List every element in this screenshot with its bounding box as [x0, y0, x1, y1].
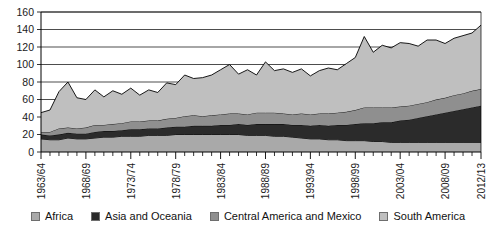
- y-axis-tick-label: 120: [16, 41, 34, 53]
- legend-swatch-icon: [210, 212, 219, 221]
- y-axis-tick-label: 140: [16, 23, 34, 35]
- x-axis-tick-label: 2003/04: [395, 163, 406, 200]
- x-axis-tick-label: 2008/09: [440, 163, 451, 200]
- y-axis-tick-label: 160: [16, 6, 34, 18]
- y-axis-tick-label: 0: [28, 146, 34, 158]
- x-axis-tick-label: 1983/84: [216, 163, 227, 200]
- x-axis-tick-label: 1963/64: [36, 163, 47, 200]
- legend-swatch-icon: [379, 212, 388, 221]
- chart-legend: AfricaAsia and OceaniaCentral America an…: [0, 204, 496, 228]
- y-axis-tick-label: 100: [16, 58, 34, 70]
- legend-swatch-icon: [91, 212, 100, 221]
- legend-label: Central America and Mexico: [224, 210, 362, 222]
- x-axis-tick-label: 1978/79: [171, 163, 182, 200]
- y-axis-tick-label: 80: [22, 76, 34, 88]
- legend-label: Africa: [45, 210, 73, 222]
- x-axis-tick-label: 1993/94: [305, 163, 316, 200]
- x-axis-tick-label: 1973/74: [126, 163, 137, 200]
- x-axis-tick-label: 1988/89: [260, 163, 271, 200]
- legend-swatch-icon: [31, 212, 40, 221]
- legend-item-central-america-and-mexico[interactable]: Central America and Mexico: [210, 210, 362, 222]
- y-axis-tick-label: 20: [22, 128, 34, 140]
- legend-item-africa[interactable]: Africa: [31, 210, 73, 222]
- stacked-area-chart: 0204060801001201401601963/641968/691973/…: [0, 0, 496, 235]
- legend-label: South America: [393, 210, 465, 222]
- legend-item-asia-and-oceania[interactable]: Asia and Oceania: [91, 210, 192, 222]
- y-axis-tick-label: 40: [22, 111, 34, 123]
- legend-item-south-america[interactable]: South America: [379, 210, 465, 222]
- chart-plot-area: 0204060801001201401601963/641968/691973/…: [0, 0, 496, 200]
- legend-label: Asia and Oceania: [105, 210, 192, 222]
- x-axis-tick-label: 2012/13: [476, 163, 487, 200]
- y-axis-tick-label: 60: [22, 93, 34, 105]
- x-axis-tick-label: 1968/69: [81, 163, 92, 200]
- x-axis-tick-label: 1998/99: [350, 163, 361, 200]
